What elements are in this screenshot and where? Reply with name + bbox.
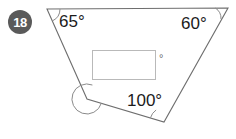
angle-arc-top-right: [216, 8, 222, 19]
angle-label-top-right: 60°: [181, 15, 207, 32]
angle-label-bottom-right: 100°: [127, 92, 162, 109]
degree-symbol-icon: °: [159, 53, 163, 64]
angle-label-top-left: 65°: [59, 13, 85, 30]
problem-number-badge: 18: [8, 10, 32, 34]
angle-arc-bottom-right: [151, 110, 157, 118]
missing-angle-answer-input[interactable]: [92, 50, 156, 80]
geometry-figure-panel: 18 65° 60° 100° °: [0, 0, 236, 139]
